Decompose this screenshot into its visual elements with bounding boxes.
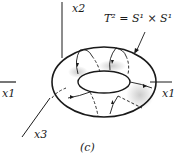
torus-inner-edge <box>78 71 130 93</box>
x2-label: x2 <box>72 2 85 15</box>
left-x1-label: x1 <box>2 87 15 100</box>
x1-label: x1 <box>162 87 175 100</box>
torus-diagram: x1 x2 T² = S¹ × S¹ x1 x3 (c) <box>0 0 186 157</box>
x3-label: x3 <box>34 128 47 141</box>
panel-label: (c) <box>80 141 95 154</box>
torus-equation: T² = S¹ × S¹ <box>104 12 172 25</box>
pointer-arrow-icon <box>134 48 139 54</box>
